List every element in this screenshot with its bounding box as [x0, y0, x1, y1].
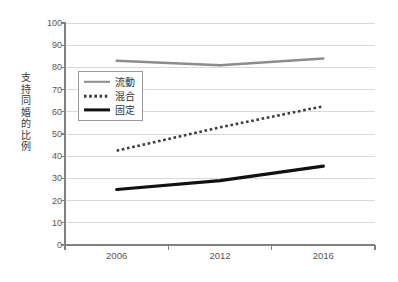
series-line-0 [117, 59, 324, 66]
x-tick-label: 2012 [209, 250, 230, 261]
series-line-1 [117, 106, 324, 150]
legend-label-fluid: 流動 [115, 77, 135, 88]
series-line-2 [117, 166, 324, 189]
legend-item-fluid: 流動 [84, 75, 135, 89]
gridlines [65, 23, 375, 223]
plot-area [0, 0, 398, 282]
legend-label-mixed: 混合 [115, 91, 135, 102]
legend-line-solid-black-icon [84, 105, 110, 115]
x-tick-label: 2006 [106, 250, 127, 261]
legend-line-dotted-icon [84, 91, 110, 101]
legend-item-mixed: 混合 [84, 89, 135, 103]
legend-item-fixed: 固定 [84, 103, 135, 117]
chart-container: 支持同婚的比例 1009080706050403020100 流動 混合 固定 … [0, 0, 398, 282]
axis-lines [61, 22, 375, 250]
chart-legend: 流動 混合 固定 [78, 71, 143, 121]
x-tick-label: 2016 [313, 250, 334, 261]
legend-label-fixed: 固定 [115, 105, 135, 116]
legend-line-solid-gray-icon [84, 77, 110, 87]
